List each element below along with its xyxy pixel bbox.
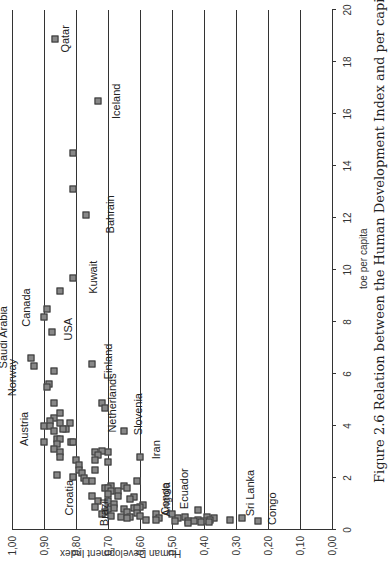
figure-caption: Figure 2.6 Relation between the Human De… bbox=[372, 0, 387, 483]
x-axis-label: toe per capita bbox=[358, 228, 369, 289]
x-tick-label: 4 bbox=[342, 423, 353, 429]
x-tick bbox=[332, 269, 336, 270]
point-label: Austria bbox=[18, 412, 30, 446]
x-tick bbox=[332, 217, 336, 218]
data-point bbox=[44, 306, 51, 313]
gridline bbox=[300, 10, 301, 530]
data-point bbox=[50, 428, 57, 435]
data-point bbox=[69, 186, 76, 193]
gridline bbox=[12, 10, 13, 530]
x-tick bbox=[332, 113, 336, 114]
data-point bbox=[57, 287, 64, 294]
x-tick bbox=[332, 373, 336, 374]
data-point bbox=[31, 363, 38, 370]
x-tick bbox=[332, 165, 336, 166]
x-tick-label: 2 bbox=[342, 475, 353, 481]
gridline bbox=[140, 10, 141, 530]
point-label: Sri Lanka bbox=[244, 470, 256, 516]
gridline bbox=[268, 10, 269, 530]
point-label: Slovenia bbox=[132, 393, 144, 435]
data-point bbox=[172, 517, 179, 524]
data-point bbox=[44, 384, 51, 391]
point-label: Kuwait bbox=[87, 261, 99, 294]
point-label: USA bbox=[62, 318, 74, 341]
point-label: Qatar bbox=[59, 25, 71, 53]
data-point bbox=[114, 493, 121, 500]
data-point bbox=[92, 456, 99, 463]
y-tick-label: 0,30 bbox=[231, 536, 242, 566]
data-point bbox=[41, 438, 48, 445]
data-point bbox=[57, 410, 64, 417]
data-point bbox=[57, 454, 64, 461]
data-point bbox=[51, 35, 58, 42]
data-point bbox=[133, 477, 140, 484]
point-label: Canada bbox=[20, 288, 32, 327]
gridline bbox=[76, 10, 77, 530]
data-point bbox=[194, 507, 201, 514]
data-point bbox=[105, 459, 112, 466]
point-label: Brazil bbox=[98, 499, 110, 527]
x-tick bbox=[332, 425, 336, 426]
point-label: Bahrain bbox=[104, 195, 116, 233]
data-point bbox=[50, 399, 57, 406]
data-point bbox=[124, 515, 131, 522]
data-point bbox=[185, 520, 192, 527]
x-tick-label: 12 bbox=[342, 212, 353, 223]
x-tick-label: 20 bbox=[342, 4, 353, 15]
x-tick-label: 10 bbox=[342, 264, 353, 275]
point-label: Iceland bbox=[110, 84, 122, 119]
data-point bbox=[95, 98, 102, 105]
data-point bbox=[111, 504, 118, 511]
data-point bbox=[92, 467, 99, 474]
point-label: Congo bbox=[159, 483, 171, 515]
data-point bbox=[105, 490, 112, 497]
y-tick-label: 0,90 bbox=[39, 536, 50, 566]
gridline bbox=[44, 10, 45, 530]
data-point bbox=[28, 355, 35, 362]
point-label: Congo bbox=[266, 492, 278, 524]
data-point bbox=[53, 472, 60, 479]
x-tick bbox=[332, 321, 336, 322]
point-label: Iran bbox=[150, 440, 162, 459]
x-tick bbox=[332, 9, 336, 10]
gridline bbox=[172, 10, 173, 530]
data-point bbox=[69, 150, 76, 157]
x-axis-line bbox=[332, 10, 333, 530]
data-point bbox=[89, 360, 96, 367]
y-tick-label: 0,20 bbox=[263, 536, 274, 566]
data-point bbox=[124, 485, 131, 492]
x-tick-label: 14 bbox=[342, 160, 353, 171]
data-point bbox=[50, 368, 57, 375]
data-point bbox=[143, 516, 150, 523]
data-point bbox=[49, 329, 56, 336]
y-tick-label: 0,40 bbox=[199, 536, 210, 566]
gridline bbox=[204, 10, 205, 530]
point-label: Ecuador bbox=[178, 468, 190, 509]
point-label: Croatia bbox=[63, 480, 75, 515]
data-point bbox=[69, 274, 76, 281]
data-point bbox=[41, 313, 48, 320]
data-point bbox=[226, 516, 233, 523]
data-point bbox=[121, 428, 128, 435]
x-tick-label: 16 bbox=[342, 108, 353, 119]
point-label: Netherlands bbox=[106, 373, 118, 432]
scatter-plot-area: 0,000,100,200,300,400,500,600,700,800,90… bbox=[12, 10, 332, 530]
x-tick-label: 18 bbox=[342, 56, 353, 67]
data-point bbox=[105, 449, 112, 456]
rotated-chart-page: 0,000,100,200,300,400,500,600,700,800,90… bbox=[0, 0, 389, 571]
data-point bbox=[153, 517, 160, 524]
data-point bbox=[205, 519, 212, 526]
data-point bbox=[89, 477, 96, 484]
x-tick bbox=[332, 529, 336, 530]
y-tick-label: 1,00 bbox=[7, 536, 18, 566]
data-point bbox=[60, 425, 67, 432]
point-label: Norway bbox=[6, 359, 18, 396]
data-point bbox=[69, 438, 76, 445]
data-point bbox=[137, 454, 144, 461]
y-tick-label: 0,10 bbox=[295, 536, 306, 566]
data-point bbox=[255, 517, 262, 524]
data-point bbox=[197, 519, 204, 526]
x-tick-label: 6 bbox=[342, 371, 353, 377]
x-tick-label: 0 bbox=[342, 527, 353, 533]
data-point bbox=[82, 212, 89, 219]
